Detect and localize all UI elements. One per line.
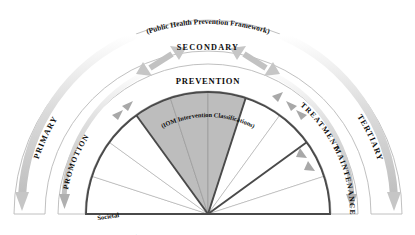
prevention-framework-diagram: (Public Health Prevention Framework) PRI… [0,0,415,235]
prevention-label: PREVENTION [176,76,240,86]
svg-text:Community: Community [105,232,139,235]
outer-ring-secondary: SECONDARY [177,43,239,52]
wedge-label-community: Community [105,232,139,235]
diagram-canvas: (Public Health Prevention Framework) PRI… [0,0,415,235]
